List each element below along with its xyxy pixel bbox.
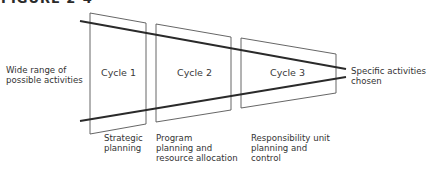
left-label: Wide range of possible activities [6,65,83,85]
cycle-1-label: Cycle 1 [101,68,136,78]
cycle-3-label: Cycle 3 [270,68,305,78]
cycle-2-caption: Program planning and resource allocation [156,133,238,163]
cycle-2-label: Cycle 2 [177,68,212,78]
cycle-3-caption: Responsibility unit planning and control [251,133,330,163]
cycle-1-caption: Strategic planning [104,133,143,153]
upper-funnel-line [80,21,346,69]
right-label: Specific activities chosen [351,66,426,86]
lower-funnel-line [80,77,346,121]
